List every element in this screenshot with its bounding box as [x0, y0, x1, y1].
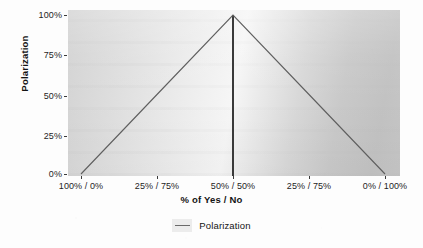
chart-figure: 100% 75% 50% 25% 0% Polarization 100% / … — [0, 0, 423, 248]
x-tick-mark-4 — [309, 176, 310, 179]
x-tick-mark-5 — [385, 176, 386, 179]
y-tick-mark-75 — [64, 55, 67, 56]
legend-label-polarization: Polarization — [199, 220, 250, 231]
chart-legend: Polarization — [0, 219, 423, 232]
x-tick-mark-3 — [233, 176, 234, 179]
y-tick-label-25: 25% — [16, 131, 62, 141]
y-axis-title: Polarization — [19, 4, 30, 124]
x-axis-title: % of Yes / No — [0, 194, 423, 205]
x-tick-label-5: 0% / 100% — [340, 181, 423, 191]
y-tick-mark-100 — [64, 15, 67, 16]
plot-series-svg — [68, 10, 400, 176]
x-tick-mark-1 — [81, 176, 82, 179]
plot-panel — [68, 10, 400, 176]
legend-line-icon — [175, 225, 190, 226]
y-tick-mark-25 — [64, 136, 67, 137]
y-tick-label-0: 0% — [16, 169, 62, 179]
legend-line-swatch — [172, 219, 192, 232]
y-tick-mark-50 — [64, 96, 67, 97]
x-tick-mark-2 — [157, 176, 158, 179]
y-tick-mark-0 — [64, 174, 67, 175]
